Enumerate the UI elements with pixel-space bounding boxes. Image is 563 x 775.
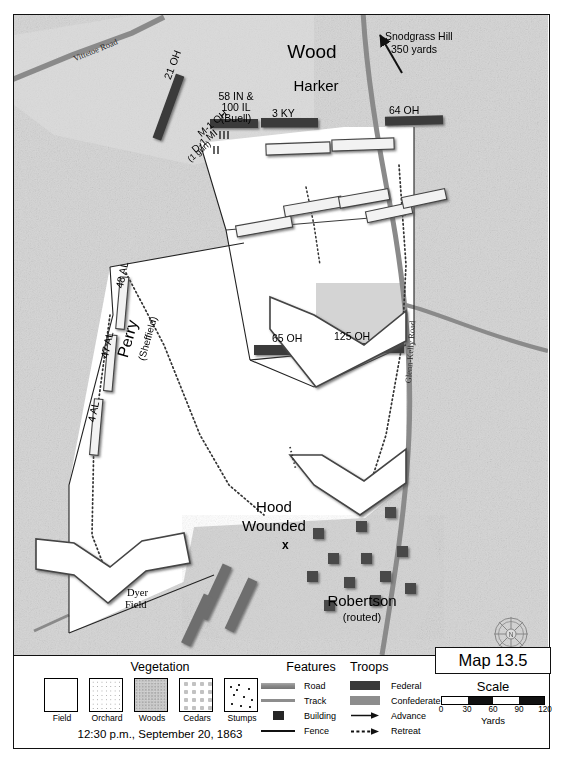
federal-bar-icon [350,681,380,690]
confederate-bar-icon [350,696,380,705]
map-page: N Wood Harker Snodgrass Hill 350 yards V… [0,0,563,775]
scale-tick-60: 60 [488,705,497,714]
troop-confederate-label: Confederate [386,696,441,706]
legend-datetime: 12:30 p.m., September 20, 1863 [44,728,276,740]
veg-orchard-swatch [89,678,123,712]
label-unit-3-ky: 3 KY [272,108,295,119]
troop-federal-label: Federal [386,681,422,691]
scale-tick-0: 0 [439,705,444,714]
scale-ticks: 0 30 60 90 120 [437,705,549,716]
compass-north-letter: N [509,631,514,638]
veg-cedars-label: Cedars [179,713,215,723]
map-number-plate: Map 13.5 [435,647,551,674]
veg-woods-swatch [134,678,168,712]
scale-tick-90: 90 [514,705,523,714]
legend-vegetation: Vegetation Field Orchard Woods Cedars [44,660,276,740]
label-unit-64-oh: 64 OH [389,105,419,116]
scale-unit-label: Yards [437,715,549,726]
label-hood-wounded-line2: Wounded [220,518,328,534]
veg-field-label: Field [44,713,80,723]
scale-tick-120: 120 [538,705,552,714]
feat-fence-label: Fence [299,726,329,736]
veg-field: Field [44,678,80,723]
retreat-arrow-icon [349,727,381,736]
troop-retreat-label: Retreat [386,726,421,736]
scale-tick-30: 30 [462,705,471,714]
veg-stumps: Stumps [224,678,260,723]
label-dyer-field-line1: Dyer [127,587,148,598]
label-unit-125-oh: 125 OH [334,331,370,342]
label-robertson-routed: (routed) [314,612,410,624]
track-line-icon [261,699,295,702]
label-unit-65-oh: 65 OH [272,333,302,344]
label-harker-brigade: Harker [280,78,352,94]
legend-vegetation-title: Vegetation [44,660,276,674]
label-dyer-field-line2: Field [125,599,147,610]
scale-block: Scale 0 30 60 90 120 Yards [437,679,549,726]
veg-orchard: Orchard [89,678,125,723]
annotation-snodgrass-hill-line2: 350 yards [391,44,437,55]
feat-track-label: Track [299,696,326,706]
map-number-text: Map 13.5 [459,651,528,670]
road-line-icon [261,683,295,689]
building-square-icon [273,711,284,720]
veg-woods: Woods [134,678,170,723]
scale-bar [441,696,545,705]
label-wood-division: Wood [276,42,348,62]
map-canvas[interactable]: N Wood Harker Snodgrass Hill 350 yards V… [14,15,548,655]
veg-woods-label: Woods [134,713,170,723]
casualty-marker-x: x [282,539,289,552]
veg-cedars-swatch [179,678,213,712]
troop-retreat: Retreat [344,725,464,738]
feat-building-label: Building [299,711,336,721]
scale-title: Scale [437,679,549,694]
label-robertson-brigade: Robertson [310,593,414,609]
veg-cedars: Cedars [179,678,215,723]
veg-stumps-label: Stumps [224,713,260,723]
map-frame: N Wood Harker Snodgrass Hill 350 yards V… [13,14,550,749]
feat-road-label: Road [299,681,326,691]
advance-arrow-icon [349,711,381,720]
annotation-snodgrass-hill-line1: Snodgrass Hill [385,31,453,42]
troop-advance-label: Advance [386,711,426,721]
fence-line-icon [261,730,295,731]
veg-field-swatch [44,678,78,712]
veg-orchard-label: Orchard [89,713,125,723]
label-hood-wounded-line1: Hood [230,499,318,515]
veg-stumps-swatch [224,678,258,712]
